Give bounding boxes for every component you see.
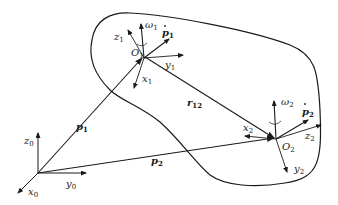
svg-text:x1: x1: [142, 73, 152, 86]
p1dot-dot: [164, 25, 166, 27]
svg-text:x0: x0: [28, 186, 38, 199]
O2-label: O: [282, 141, 290, 152]
y1-axis: [144, 55, 183, 58]
omega1-rotation-icon: [137, 43, 147, 46]
diagram-canvas: z0 y0 x0 p1 p2 r12 z1 ω1 p1 O1 y1 x1 ω2 …: [0, 0, 338, 205]
svg-text:z0: z0: [23, 135, 34, 148]
p2dot-dot: [304, 103, 306, 105]
svg-text:O2: O2: [282, 141, 295, 154]
omega2-vector: [274, 101, 276, 139]
r12-label: r12: [187, 97, 202, 110]
O1-label: O: [131, 47, 139, 58]
p2dot-label: p: [302, 106, 309, 117]
frame-0: z0 y0 x0: [18, 133, 86, 199]
frame-2: ω2 p2 z2 x2 O2 y2: [243, 96, 321, 176]
svg-text:ω1: ω1: [145, 19, 158, 32]
svg-text:p1: p1: [162, 27, 174, 40]
p2dot-vector: [276, 120, 308, 139]
svg-text:y0: y0: [65, 178, 76, 191]
p2-label: p2: [151, 155, 163, 168]
omega1-label: ω: [145, 19, 153, 30]
p1dot-label: p: [162, 27, 169, 38]
svg-text:y2: y2: [293, 163, 304, 176]
svg-text:ω2: ω2: [281, 96, 294, 109]
p1-label: p1: [76, 121, 88, 134]
p1dot-vector: [144, 39, 169, 58]
omega2-label: ω: [281, 96, 289, 107]
p1-vector: [38, 58, 142, 173]
svg-text:p2: p2: [302, 106, 314, 119]
svg-text:z2: z2: [304, 130, 315, 143]
svg-text:O1: O1: [131, 47, 144, 60]
svg-text:z1: z1: [113, 31, 124, 44]
